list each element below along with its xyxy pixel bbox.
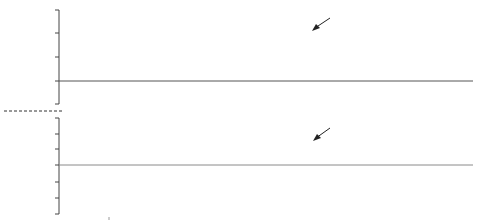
flow-arrow-icon [313, 128, 330, 141]
ventilator-waveform-figure [0, 0, 502, 221]
waveform-chart-svg [0, 0, 502, 221]
flow-y-ticks [55, 118, 59, 214]
pressure-y-ticks [55, 10, 59, 104]
pressure-chart [0, 0, 473, 104]
flow-chart [55, 118, 473, 220]
pressure-spike-arrow-icon [312, 18, 330, 31]
